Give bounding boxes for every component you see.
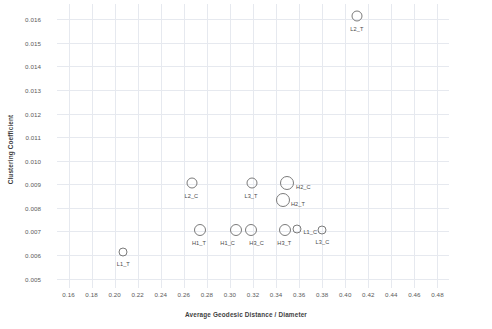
data-point-label: H2_C: [296, 184, 311, 190]
data-point-label: H1_T: [192, 240, 206, 246]
gridline-horizontal: [57, 208, 449, 209]
data-point[interactable]: [280, 176, 294, 190]
y-tick-label: 0.016: [0, 16, 41, 23]
data-point-label: L1_T: [117, 261, 130, 267]
data-point-label: H3_T: [277, 240, 291, 246]
data-point-label: H3_C: [249, 240, 264, 246]
gridline-horizontal: [57, 161, 449, 162]
data-point-label: H2_T: [291, 201, 305, 207]
data-point-label: L1_C: [303, 229, 317, 235]
data-point-label: L2_C: [184, 193, 198, 199]
y-tick-label: 0.005: [0, 275, 41, 282]
data-point-label: L3_C: [316, 239, 330, 245]
gridline-vertical: [161, 4, 162, 288]
data-point[interactable]: [352, 10, 363, 21]
gridline-vertical: [138, 4, 139, 288]
gridline-vertical: [391, 4, 392, 288]
gridline-horizontal: [57, 43, 449, 44]
y-tick-label: 0.006: [0, 252, 41, 259]
data-point-label: H1_C: [220, 240, 235, 246]
data-point[interactable]: [317, 226, 326, 235]
y-axis-title: Clustering Coefficient: [7, 80, 14, 220]
data-point[interactable]: [245, 224, 257, 236]
y-tick-label: 0.014: [0, 63, 41, 70]
gridline-horizontal: [57, 279, 449, 280]
gridline-horizontal: [57, 19, 449, 20]
data-point[interactable]: [279, 224, 291, 236]
gridline-vertical: [368, 4, 369, 288]
data-point[interactable]: [247, 178, 258, 189]
gridline-vertical: [322, 4, 323, 288]
gridline-vertical: [345, 4, 346, 288]
plot-area: L2_TL2_CL3_TH2_CH2_TH1_TH1_CH3_CH3_TL1_C…: [57, 4, 449, 288]
y-tick-label: 0.015: [0, 39, 41, 46]
gridline-vertical: [115, 4, 116, 288]
gridline-vertical: [414, 4, 415, 288]
gridline-vertical: [207, 4, 208, 288]
x-axis-title: Average Geodesic Distance / Diameter: [0, 311, 492, 318]
data-point[interactable]: [194, 224, 206, 236]
gridline-vertical: [92, 4, 93, 288]
gridline-horizontal: [57, 90, 449, 91]
data-point[interactable]: [293, 225, 302, 234]
data-point[interactable]: [187, 178, 198, 189]
gridline-vertical: [184, 4, 185, 288]
gridline-horizontal: [57, 255, 449, 256]
gridline-vertical: [299, 4, 300, 288]
gridline-horizontal: [57, 114, 449, 115]
gridline-horizontal: [57, 137, 449, 138]
data-point[interactable]: [118, 248, 127, 257]
data-point-label: L2_T: [350, 26, 363, 32]
gridline-vertical: [437, 4, 438, 288]
data-point[interactable]: [276, 193, 290, 207]
gridline-horizontal: [57, 66, 449, 67]
y-tick-label: 0.007: [0, 228, 41, 235]
data-point[interactable]: [230, 224, 242, 236]
scatter-chart: L2_TL2_CL3_TH2_CH2_TH1_TH1_CH3_CH3_TL1_C…: [0, 0, 492, 329]
data-point-label: L3_T: [244, 193, 257, 199]
gridline-vertical: [69, 4, 70, 288]
x-tick-label: 0.48: [417, 291, 457, 298]
